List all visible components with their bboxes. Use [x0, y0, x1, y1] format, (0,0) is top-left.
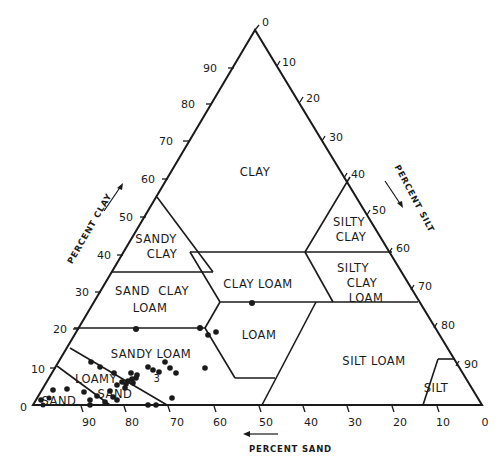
silt-tick-20: 20 [306, 92, 320, 105]
sand-tick-80: 80 [125, 416, 139, 429]
sand-tick-50: 50 [259, 416, 273, 429]
sand-arrow-icon [243, 431, 278, 437]
silt-tick-0: 0 [262, 16, 269, 29]
clay-tick-70: 70 [159, 135, 173, 148]
soil-texture-triangle: 90 80 70 60 50 40 30 20 10 0 PERCENT CLA… [0, 0, 504, 470]
silt-arrow-icon [385, 181, 403, 208]
silt-tick-10: 10 [282, 56, 296, 69]
clay-tick-60: 60 [141, 173, 155, 186]
clay-tick-10: 10 [31, 363, 45, 376]
sand-tick-0: 0 [482, 416, 489, 429]
silt-tick-60: 60 [396, 242, 410, 255]
sand-tick-40: 40 [304, 416, 318, 429]
silt-tick-50: 50 [372, 204, 386, 217]
clay-tick-80: 80 [181, 98, 195, 111]
clay-tick-40: 40 [97, 249, 111, 262]
silt-tick-90: 90 [464, 358, 478, 371]
sand-tick-30: 30 [348, 416, 362, 429]
label-silty-clay-loam-2: CLAY [347, 276, 378, 290]
sand-axis-title: PERCENT SAND [249, 444, 332, 454]
clay-tick-30: 30 [75, 286, 89, 299]
label-silt: SILT [424, 381, 449, 395]
label-silty-clay-loam-3: LOAM [349, 291, 384, 305]
label-sandy-loam: SANDY LOAM [111, 347, 192, 361]
label-silty-clay-2: CLAY [336, 230, 367, 244]
sand-axis: 90 80 70 60 50 40 30 20 10 0 PERCENT SAN… [81, 406, 489, 454]
label-loam: LOAM [242, 328, 277, 342]
label-sandy-clay-loam-1: SAND CLAY [115, 284, 189, 298]
silt-tick-30: 30 [329, 131, 343, 144]
sand-tick-60: 60 [213, 416, 227, 429]
label-sandy-clay-loam-2: LOAM [133, 301, 168, 315]
silt-axis-title: PERCENT SILT [393, 163, 437, 234]
clay-tick-90: 90 [203, 62, 217, 75]
sand-tick-20: 20 [393, 416, 407, 429]
silt-axis: 0 10 20 30 40 50 60 70 80 90 PERCENT SIL… [255, 16, 478, 371]
label-sandy-clay-1: SANDY [135, 232, 177, 246]
label-silty-clay-1: SILTY [333, 215, 366, 229]
silt-tick-70: 70 [418, 280, 432, 293]
label-loamy-sand-1: LOAMY [75, 372, 118, 386]
clay-tick-50: 50 [119, 211, 133, 224]
silt-tick-80: 80 [441, 319, 455, 332]
label-clay: CLAY [240, 165, 271, 179]
label-sand: SAND [42, 394, 77, 408]
label-silt-loam: SILT LOAM [342, 354, 405, 368]
sand-tick-90: 90 [82, 416, 96, 429]
clay-tick-20: 20 [53, 323, 67, 336]
clay-tick-0: 0 [20, 401, 27, 414]
clay-axis: 90 80 70 60 50 40 30 20 10 0 PERCENT CLA… [20, 62, 234, 414]
sand-tick-10: 10 [436, 416, 450, 429]
silt-tick-40: 40 [351, 168, 365, 181]
label-clay-loam: CLAY LOAM [223, 277, 293, 291]
sand-tick-70: 70 [170, 416, 184, 429]
label-silty-clay-loam-1: SILTY [337, 261, 370, 275]
label-sandy-clay-2: CLAY [147, 247, 178, 261]
